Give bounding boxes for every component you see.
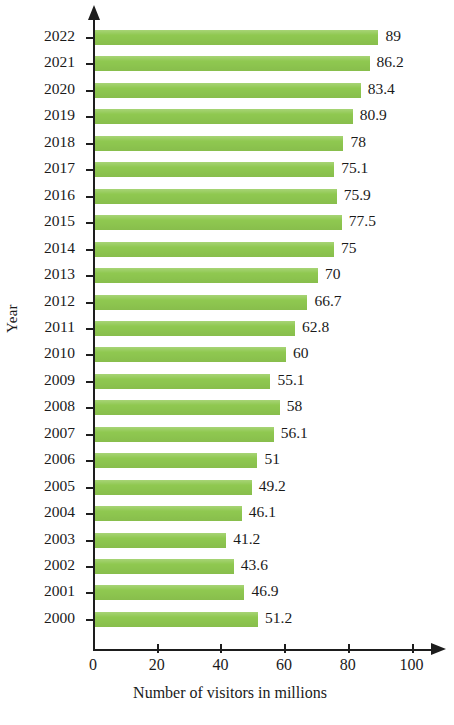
bar-row: 201878 — [93, 131, 454, 157]
x-axis-tick — [412, 644, 414, 653]
x-axis-tick — [157, 644, 159, 653]
bar-row: 202289 — [93, 25, 454, 51]
y-axis-tick-label: 2019 — [15, 106, 75, 124]
bar-row: 201980.9 — [93, 104, 454, 130]
bar-value-label: 75.1 — [341, 159, 368, 177]
bar — [95, 559, 234, 574]
bar — [95, 427, 274, 442]
bar — [95, 242, 334, 257]
y-axis-tick — [86, 407, 95, 409]
bar-row: 201775.1 — [93, 157, 454, 183]
bar-row: 200651 — [93, 448, 454, 474]
bar-row: 200549.2 — [93, 475, 454, 501]
y-axis-tick — [86, 434, 95, 436]
x-axis-line — [93, 649, 433, 651]
bar-value-label: 55.1 — [277, 371, 304, 389]
bar-row: 201266.7 — [93, 290, 454, 316]
bar-value-label: 62.8 — [302, 318, 329, 336]
y-axis-tick-label: 2004 — [15, 503, 75, 521]
y-axis-tick-label: 2015 — [15, 212, 75, 230]
bar-value-label: 51.2 — [265, 609, 292, 627]
bar-value-label: 75.9 — [344, 186, 371, 204]
bar-row: 201162.8 — [93, 316, 454, 342]
x-axis-tick-label: 40 — [195, 656, 245, 674]
bar — [95, 295, 307, 310]
x-axis-tick-label: 60 — [259, 656, 309, 674]
y-axis-tick-label: 2007 — [15, 424, 75, 442]
bar-value-label: 60 — [293, 344, 309, 362]
bar — [95, 480, 252, 495]
y-axis-tick-label: 2005 — [15, 477, 75, 495]
y-axis-tick — [86, 487, 95, 489]
y-axis-tick-label: 2011 — [15, 318, 75, 336]
bar-value-label: 77.5 — [349, 212, 376, 230]
y-axis-tick — [86, 592, 95, 594]
bar-row: 200858 — [93, 395, 454, 421]
y-axis-tick — [86, 566, 95, 568]
bar — [95, 321, 295, 336]
bar-row: 200051.2 — [93, 607, 454, 633]
bar — [95, 189, 337, 204]
y-axis-tick-label: 2006 — [15, 450, 75, 468]
y-axis-tick-label: 2010 — [15, 344, 75, 362]
y-axis-tick — [86, 143, 95, 145]
bar — [95, 268, 318, 283]
bar — [95, 585, 244, 600]
bar-value-label: 51 — [264, 450, 280, 468]
x-axis-tick-label: 100 — [387, 656, 437, 674]
bar — [95, 453, 257, 468]
y-axis-tick-label: 2009 — [15, 371, 75, 389]
bar-value-label: 66.7 — [314, 292, 341, 310]
y-axis-tick-label: 2020 — [15, 80, 75, 98]
x-axis-tick — [220, 644, 222, 653]
bar — [95, 612, 258, 627]
bar — [95, 374, 270, 389]
y-axis-tick — [86, 196, 95, 198]
bar-value-label: 89 — [385, 27, 401, 45]
y-axis-tick — [86, 354, 95, 356]
y-axis-tick — [86, 460, 95, 462]
x-axis-tick-label: 20 — [132, 656, 182, 674]
y-axis-tick-label: 2016 — [15, 186, 75, 204]
bar-row: 200756.1 — [93, 422, 454, 448]
bar-value-label: 83.4 — [368, 80, 395, 98]
bar-row: 202186.2 — [93, 51, 454, 77]
y-axis-tick — [86, 275, 95, 277]
bar-value-label: 49.2 — [259, 477, 286, 495]
x-axis-tick — [348, 644, 350, 653]
y-axis-tick-label: 2001 — [15, 582, 75, 600]
y-axis-tick — [86, 90, 95, 92]
y-axis-tick-label: 2002 — [15, 556, 75, 574]
y-axis-tick — [86, 222, 95, 224]
bar-row: 201370 — [93, 263, 454, 289]
bar-row: 201675.9 — [93, 184, 454, 210]
bar-value-label: 80.9 — [360, 106, 387, 124]
y-axis-tick — [86, 37, 95, 39]
bar — [95, 533, 226, 548]
y-axis-tick — [86, 249, 95, 251]
bar-row: 200341.2 — [93, 528, 454, 554]
bar-value-label: 41.2 — [233, 530, 260, 548]
bar-value-label: 86.2 — [377, 53, 404, 71]
y-axis-tick — [86, 63, 95, 65]
y-axis-tick-label: 2017 — [15, 159, 75, 177]
x-axis-tick — [284, 644, 286, 653]
bar-chart: Year 202289202186.2202083.4201980.920187… — [0, 0, 454, 725]
y-axis-tick-label: 2022 — [15, 27, 75, 45]
x-axis-tick-label: 0 — [68, 656, 118, 674]
bar-row: 201577.5 — [93, 210, 454, 236]
bar-row: 201475 — [93, 237, 454, 263]
y-axis-tick — [86, 169, 95, 171]
bar — [95, 83, 361, 98]
x-axis-title: Number of visitors in millions — [60, 684, 400, 702]
bar — [95, 56, 370, 71]
x-axis-tick-label: 80 — [323, 656, 373, 674]
bar — [95, 30, 378, 45]
y-axis-tick — [86, 513, 95, 515]
bar — [95, 109, 353, 124]
y-axis-tick-label: 2014 — [15, 239, 75, 257]
bar-value-label: 58 — [287, 397, 303, 415]
bar — [95, 215, 342, 230]
bar-row: 200955.1 — [93, 369, 454, 395]
y-axis-tick-label: 2018 — [15, 133, 75, 151]
